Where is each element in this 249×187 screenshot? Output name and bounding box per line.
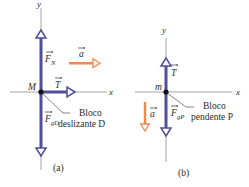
gravity-force-label: F gD	[44, 112, 59, 126]
callout-line-2: pendente P	[191, 112, 233, 122]
y-axis-label: y	[161, 25, 166, 35]
callout-line-1: Bloco	[79, 108, 102, 118]
y-axis-label: y	[36, 0, 41, 9]
mass-label: M	[27, 82, 37, 92]
free-body-diagrams: y x M F N	[0, 0, 249, 187]
acceleration-arrow	[69, 59, 100, 68]
gravity-force-arrow	[161, 92, 171, 136]
svg-text:N: N	[50, 59, 56, 66]
acceleration-label: a	[78, 48, 85, 59]
callout-leader-line	[167, 93, 194, 107]
tension-force-label: T	[171, 65, 178, 78]
acceleration-arrow	[141, 102, 150, 131]
svg-text:F: F	[44, 54, 51, 64]
gravity-force-arrow	[36, 92, 46, 156]
svg-text:gP: gP	[177, 113, 184, 120]
tension-force-label: T	[55, 78, 62, 90]
svg-text:a: a	[79, 49, 84, 59]
x-axis-label: x	[235, 87, 240, 97]
acceleration-label: a	[150, 108, 157, 119]
svg-text:F: F	[44, 114, 51, 124]
panel-b: y x m T F gP	[135, 25, 240, 179]
normal-force-label: F N	[44, 52, 56, 66]
callout-line-2: deslizante D	[58, 119, 105, 129]
panel-b-caption: (b)	[178, 168, 189, 179]
svg-text:T: T	[55, 80, 61, 90]
panel-a: y x M F N	[10, 0, 113, 174]
svg-text:T: T	[171, 68, 177, 78]
panel-a-caption: (a)	[53, 163, 64, 174]
callout-leader-line	[42, 93, 70, 113]
gravity-force-label: F gP	[170, 106, 184, 120]
tension-force-arrow	[161, 58, 171, 92]
svg-text:a: a	[150, 109, 155, 119]
x-axis-label: x	[108, 87, 113, 97]
svg-text:F: F	[170, 108, 177, 118]
mass-label: m	[155, 82, 162, 92]
callout-line-1: Bloco	[203, 101, 226, 111]
